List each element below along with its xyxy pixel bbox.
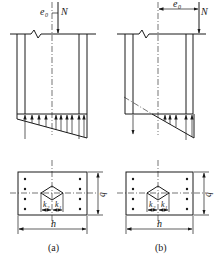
caption-b: (b) — [155, 242, 167, 254]
rebar-dots — [24, 178, 81, 210]
svg-text:0: 0 — [45, 12, 48, 18]
panel-b-plan: k 2 k 1 b h (b) — [117, 160, 215, 254]
h-label: h — [157, 218, 162, 229]
svg-text:2: 2 — [47, 205, 50, 210]
pressure-arrows — [25, 115, 84, 139]
panel-a-elevation: N e 0 — [10, 2, 96, 139]
b-label: b — [98, 192, 109, 197]
load-label: N — [200, 6, 209, 17]
pressure-arrows — [165, 115, 192, 140]
break-line — [10, 30, 96, 38]
svg-text:1: 1 — [59, 205, 62, 210]
section-outline — [126, 172, 193, 215]
panel-a-plan: k 2 k 1 b h (a) — [10, 160, 109, 254]
svg-text:1: 1 — [165, 205, 168, 210]
rebar-dots — [132, 178, 188, 210]
caption-a: (a) — [48, 242, 59, 254]
svg-text:2: 2 — [153, 205, 156, 210]
eccentric-compression-diagram: N e 0 N e 0 — [0, 0, 217, 266]
b-label: b — [204, 192, 215, 197]
svg-text:0: 0 — [178, 4, 181, 10]
pressure-slope — [17, 119, 87, 138]
tension-slope — [124, 97, 152, 114]
section-outline — [18, 172, 87, 215]
panel-b-elevation: N e 0 — [117, 0, 209, 140]
h-label: h — [51, 218, 56, 229]
load-label: N — [60, 6, 69, 17]
